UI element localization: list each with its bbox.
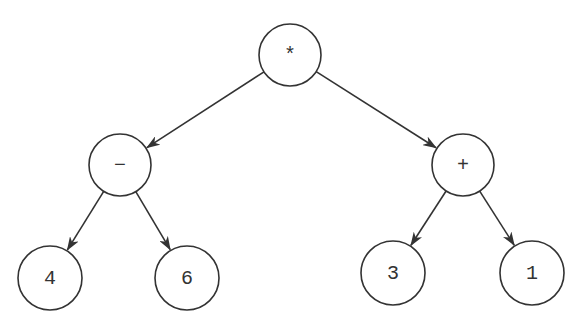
nodes-group: *−+4631 [18,24,564,310]
edge-plus-to-three-arrow [411,191,446,245]
edge-minus-to-four-arrow [67,191,103,250]
tree-node-plus: + [432,134,494,196]
node-label: 3 [387,262,399,285]
tree-node-root: * [259,24,321,86]
edge-root-to-minus-arrow [147,72,264,148]
tree-node-six: 6 [155,246,219,310]
tree-node-one: 1 [500,241,564,305]
node-label: + [457,154,469,177]
node-label: 4 [44,267,56,290]
tree-node-minus: − [89,134,151,196]
tree-node-three: 3 [361,241,425,305]
node-label: 6 [181,267,193,290]
node-label: 1 [526,262,538,285]
expression-tree-diagram: *−+4631 [0,0,577,323]
node-label: * [284,44,296,67]
edge-minus-to-six-arrow [136,192,170,250]
tree-node-four: 4 [18,246,82,310]
edge-plus-to-one-arrow [480,191,515,245]
edge-root-to-plus-arrow [316,72,436,148]
node-label: − [114,154,126,177]
